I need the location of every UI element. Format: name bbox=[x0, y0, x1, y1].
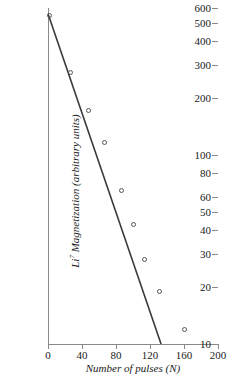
x-tick-label: 120 bbox=[142, 350, 159, 361]
fit-line-segment bbox=[48, 14, 161, 344]
x-tick-label: 200 bbox=[210, 350, 227, 361]
x-tick-label: 160 bbox=[176, 350, 193, 361]
chart-figure: Li7 Magnetization (arbitrary units) 1020… bbox=[0, 0, 251, 382]
data-point bbox=[86, 108, 91, 113]
x-axis-line bbox=[48, 344, 218, 345]
x-tick-label: 40 bbox=[77, 350, 88, 361]
data-point bbox=[142, 257, 147, 262]
plot-area: 10203040506080100200300400500600 0408012… bbox=[48, 8, 218, 344]
x-tick-label: 80 bbox=[111, 350, 122, 361]
x-tick-label: 0 bbox=[45, 350, 51, 361]
x-axis-title: Number of pulses (N) bbox=[48, 362, 218, 374]
y-axis-title-container: Li7 Magnetization (arbitrary units) bbox=[0, 0, 16, 382]
data-point bbox=[102, 140, 107, 145]
fit-line bbox=[48, 8, 218, 344]
data-point bbox=[131, 222, 136, 227]
data-point bbox=[182, 327, 187, 332]
data-point bbox=[157, 289, 162, 294]
